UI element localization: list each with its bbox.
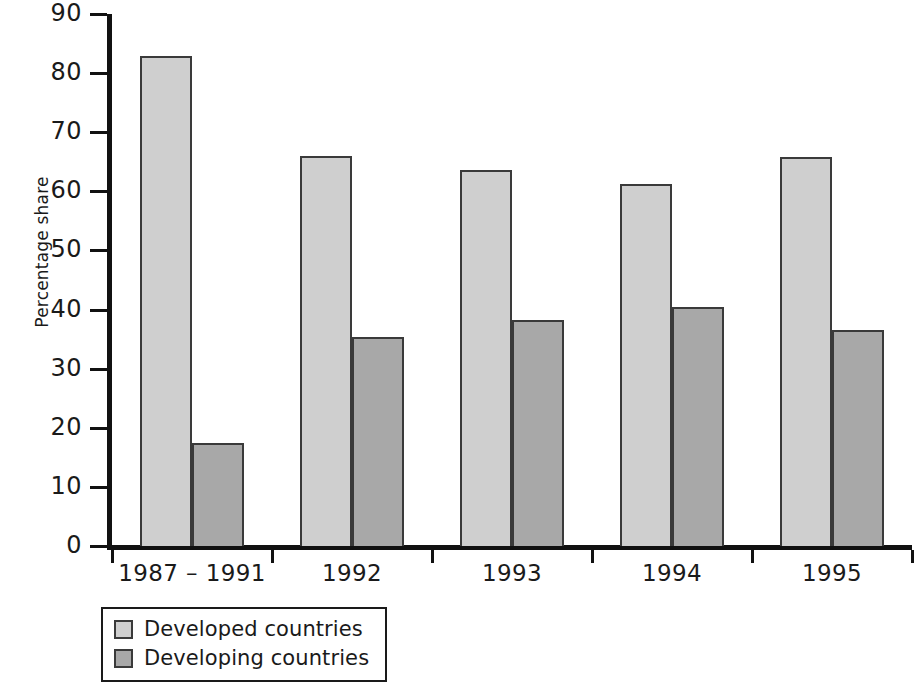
bar-developing-2	[512, 320, 564, 546]
legend-swatch-icon-developed	[114, 620, 133, 639]
bar-developed-0	[140, 56, 192, 546]
legend-item-developed: Developed countries	[114, 615, 369, 644]
bar-developed-3	[620, 184, 672, 546]
bar-developed-1	[300, 156, 352, 546]
bar-developing-4	[832, 330, 884, 546]
bar-chart: Percentage share 0102030405060708090 198…	[0, 0, 918, 691]
legend-label-developing: Developing countries	[144, 648, 369, 669]
legend-item-developing: Developing countries	[114, 644, 369, 673]
bar-developing-3	[672, 307, 724, 546]
legend: Developed countries Developing countries	[101, 607, 387, 682]
bar-developed-4	[780, 157, 832, 546]
plot-area	[0, 0, 918, 691]
legend-swatch-icon-developing	[114, 649, 133, 668]
bar-developing-0	[192, 443, 244, 546]
legend-label-developed: Developed countries	[144, 619, 363, 640]
bar-developed-2	[460, 170, 512, 546]
bar-developing-1	[352, 337, 404, 546]
